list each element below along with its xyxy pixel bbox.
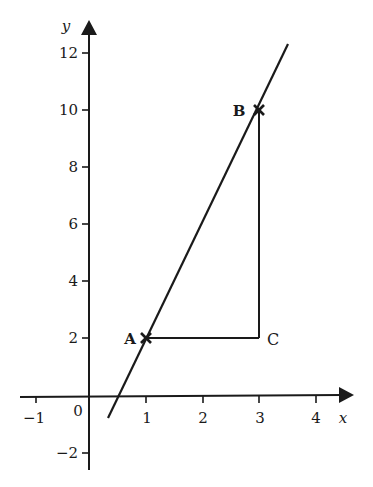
x-tick-label-1: 1 <box>142 409 152 427</box>
origin-label: 0 <box>73 402 83 420</box>
y-ticks <box>82 53 89 453</box>
x-axis-label: x <box>339 409 348 427</box>
x-axis <box>20 395 342 397</box>
y-tick-label-10: 10 <box>59 101 78 119</box>
y-tick-label-6: 6 <box>68 215 78 233</box>
point-a-label: A <box>123 330 136 348</box>
point-c-label: C <box>267 330 279 349</box>
line-through-a-b <box>108 44 288 418</box>
y-tick-label-4: 4 <box>68 272 78 290</box>
y-axis-label: y <box>61 17 71 35</box>
x-tick-label-minus-1: −1 <box>23 409 45 427</box>
y-tick-label-12: 12 <box>59 44 78 62</box>
x-tick-label-4: 4 <box>311 409 321 427</box>
y-axis-arrow-icon <box>81 20 97 35</box>
coordinate-diagram: 12 10 8 6 4 2 −2 −1 0 1 2 3 4 y x A B C <box>0 0 373 487</box>
x-axis-arrow-icon <box>339 387 354 403</box>
y-tick-label-2: 2 <box>68 329 78 347</box>
y-tick-label-minus-2: −2 <box>56 444 78 462</box>
point-b-label: B <box>233 102 246 120</box>
x-tick-label-2: 2 <box>198 409 208 427</box>
y-tick-label-8: 8 <box>68 158 78 176</box>
x-tick-label-3: 3 <box>255 409 265 427</box>
